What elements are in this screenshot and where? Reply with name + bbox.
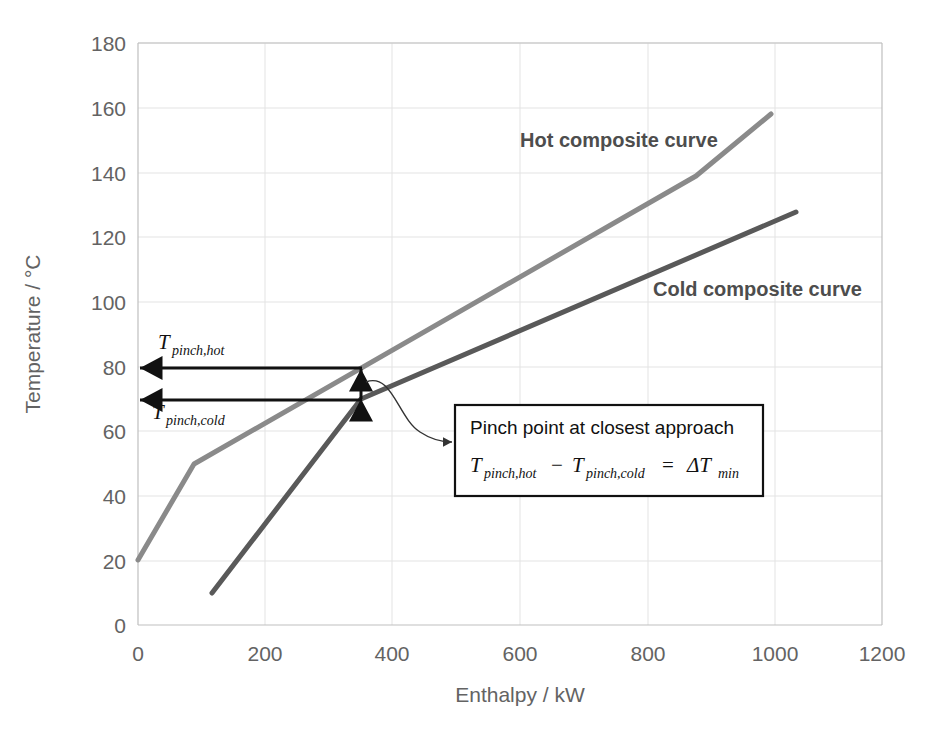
formula-equals-sign: = (662, 453, 674, 477)
t-pinch-cold-subscript: pinch,cold (165, 413, 226, 428)
t-pinch-hot-subscript: pinch,hot (171, 343, 226, 358)
x-tick-1200: 1200 (859, 642, 906, 665)
x-tick-labels: 0 200 400 600 800 1000 1200 (132, 642, 905, 665)
t-pinch-cold-symbol: T (152, 400, 165, 424)
x-tick-1000: 1000 (752, 642, 799, 665)
t-pinch-hot-symbol: T (158, 330, 171, 354)
formula-minus-sign: − (551, 453, 563, 477)
composite-curve-figure: 180 160 140 120 100 80 60 40 20 0 0 200 … (0, 0, 939, 735)
y-tick-60: 60 (103, 420, 126, 443)
y-tick-20: 20 (103, 550, 126, 573)
y-tick-140: 140 (91, 162, 126, 185)
pinch-callout-title: Pinch point at closest approach (470, 417, 734, 438)
y-tick-160: 160 (91, 97, 126, 120)
formula-term1-subscript: pinch,hot (483, 466, 538, 481)
y-tick-40: 40 (103, 485, 126, 508)
hot-curve-label: Hot composite curve (520, 129, 718, 151)
formula-term2-subscript: pinch,cold (585, 466, 646, 481)
formula-delta-t: ΔT (686, 453, 712, 477)
y-tick-120: 120 (91, 226, 126, 249)
chart-canvas: 180 160 140 120 100 80 60 40 20 0 0 200 … (0, 0, 939, 735)
y-tick-100: 100 (91, 291, 126, 314)
t-pinch-hot-label: T pinch,hot (158, 330, 226, 358)
formula-delta-subscript: min (718, 466, 739, 481)
x-tick-800: 800 (630, 642, 665, 665)
x-tick-200: 200 (247, 642, 282, 665)
x-tick-0: 0 (132, 642, 144, 665)
x-tick-600: 600 (502, 642, 537, 665)
y-tick-0: 0 (114, 614, 126, 637)
cold-curve-label: Cold composite curve (653, 278, 862, 300)
y-tick-180: 180 (91, 32, 126, 55)
t-pinch-cold-label: T pinch,cold (152, 400, 226, 428)
y-tick-80: 80 (103, 356, 126, 379)
formula-term1-symbol: T (470, 453, 483, 477)
y-axis-title: Temperature / °C (21, 255, 44, 414)
x-axis-title: Enthalpy / kW (455, 683, 585, 706)
formula-term2-symbol: T (572, 453, 585, 477)
y-tick-labels: 180 160 140 120 100 80 60 40 20 0 (91, 32, 126, 637)
x-tick-400: 400 (374, 642, 409, 665)
